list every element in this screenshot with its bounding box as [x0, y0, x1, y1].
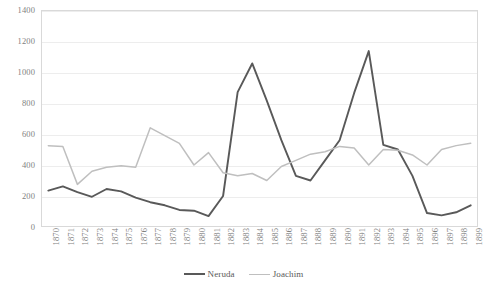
x-axis-tick-label: 1883 — [242, 228, 251, 245]
y-axis-tick-label: 200 — [22, 192, 35, 201]
legend-swatch-joachim-icon — [249, 274, 270, 275]
x-axis-tick-label: 1882 — [227, 228, 236, 245]
y-axis-tick-label: 600 — [22, 130, 35, 139]
series-layer — [41, 10, 478, 227]
x-axis-tick-label: 1898 — [460, 228, 469, 245]
x-axis-tick-label: 1880 — [198, 228, 207, 245]
x-axis-tick-label: 1875 — [125, 228, 134, 245]
x-axis-tick-label: 1897 — [446, 228, 455, 245]
x-axis-tick-label: 1889 — [329, 228, 338, 245]
x-axis-tick-label: 1894 — [402, 228, 411, 245]
series-line-neruda — [48, 51, 470, 216]
x-axis-tick-label: 1891 — [358, 228, 367, 245]
chart-legend: NerudaJoachim — [0, 266, 487, 282]
x-axis-tick-label: 1874 — [111, 228, 120, 245]
y-axis-tick-label: 800 — [22, 99, 35, 108]
x-axis-tick-label: 1899 — [475, 228, 484, 245]
x-axis-tick-label: 1873 — [96, 228, 105, 245]
y-axis-tick-label: 400 — [22, 161, 35, 170]
x-axis-tick-label: 1887 — [300, 228, 309, 245]
x-axis-tick-label: 1870 — [52, 228, 61, 245]
x-axis-tick-label: 1878 — [169, 228, 178, 245]
line-chart: 0200400600800100012001400 18701871187218… — [0, 0, 487, 290]
x-axis-tick-label: 1890 — [344, 228, 353, 245]
x-axis-tick-label: 1895 — [416, 228, 425, 245]
legend-swatch-neruda-icon — [184, 273, 205, 275]
x-axis-tick-label: 1886 — [285, 228, 294, 245]
x-axis-tick-label: 1879 — [183, 228, 192, 245]
series-line-joachim — [48, 128, 470, 185]
x-axis-tick-label: 1876 — [140, 228, 149, 245]
legend-label: Joachim — [273, 269, 304, 279]
x-axis-tick-label: 1877 — [154, 228, 163, 245]
legend-label: Neruda — [208, 269, 235, 279]
x-axis: 1870187118721873187418751876187718781879… — [41, 228, 478, 266]
x-axis-tick-label: 1892 — [373, 228, 382, 245]
x-axis-tick-label: 1872 — [81, 228, 90, 245]
legend-item-neruda[interactable]: Neruda — [184, 269, 235, 279]
y-axis-tick-label: 0 — [31, 223, 35, 232]
x-axis-tick-label: 1871 — [67, 228, 76, 245]
y-axis-tick-label: 1200 — [18, 37, 35, 46]
legend-item-joachim[interactable]: Joachim — [249, 269, 304, 279]
y-axis: 0200400600800100012001400 — [0, 0, 38, 240]
x-axis-tick-label: 1884 — [256, 228, 265, 245]
x-axis-tick-label: 1893 — [387, 228, 396, 245]
y-axis-tick-label: 1000 — [18, 68, 35, 77]
x-axis-tick-label: 1885 — [271, 228, 280, 245]
x-axis-tick-label: 1888 — [314, 228, 323, 245]
x-axis-tick-label: 1896 — [431, 228, 440, 245]
x-axis-tick-label: 1881 — [213, 228, 222, 245]
y-axis-tick-label: 1400 — [18, 6, 35, 15]
